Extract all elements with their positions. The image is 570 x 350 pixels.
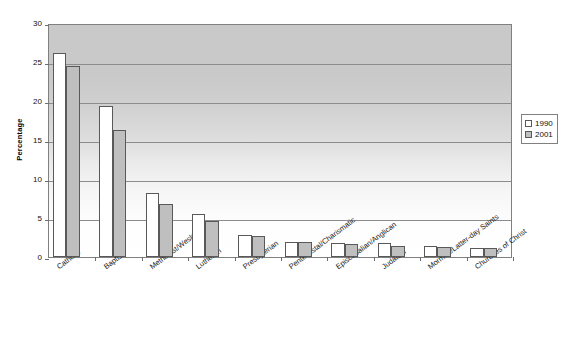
x-axis-tick-mark: [467, 257, 468, 261]
bar-chart: Percentage 051015202530 CatholicBaptistM…: [0, 0, 570, 350]
bar[interactable]: [113, 130, 127, 257]
y-axis-tick-mark: [45, 259, 49, 260]
x-axis-tick-mark: [420, 257, 421, 261]
plot-area: [48, 24, 512, 258]
x-axis-tick-mark: [95, 257, 96, 261]
legend-swatch-icon-1990: [525, 120, 532, 127]
bar[interactable]: [470, 248, 484, 257]
gridline: [49, 64, 511, 65]
bar[interactable]: [66, 66, 80, 257]
bar[interactable]: [205, 221, 219, 257]
bar[interactable]: [378, 243, 392, 257]
x-axis-tick-mark: [281, 257, 282, 261]
x-axis-tick-mark: [374, 257, 375, 261]
y-axis-tick-label: 0: [16, 254, 42, 262]
x-axis-tick-mark: [327, 257, 328, 261]
legend-label-2001: 2001: [535, 130, 553, 139]
bar[interactable]: [146, 193, 160, 257]
y-axis-tick-label: 10: [16, 176, 42, 184]
bar[interactable]: [391, 246, 405, 257]
x-axis-tick-mark: [513, 257, 514, 261]
bar[interactable]: [192, 214, 206, 257]
bar[interactable]: [285, 242, 299, 257]
bar[interactable]: [298, 242, 312, 257]
y-axis-tick-mark: [45, 103, 49, 104]
bar[interactable]: [484, 248, 498, 257]
y-axis-tick-mark: [45, 64, 49, 65]
y-axis-tick-label: 20: [16, 98, 42, 106]
bar[interactable]: [159, 204, 173, 257]
bar[interactable]: [53, 53, 67, 257]
y-axis-tick-label: 15: [16, 137, 42, 145]
bar[interactable]: [238, 235, 252, 257]
y-axis-tick-label: 25: [16, 59, 42, 67]
legend: 1990 2001: [521, 114, 558, 144]
x-axis-tick-mark: [188, 257, 189, 261]
bar[interactable]: [99, 106, 113, 257]
x-axis-tick-mark: [235, 257, 236, 261]
bar[interactable]: [345, 244, 359, 257]
x-axis-tick-mark: [142, 257, 143, 261]
bar[interactable]: [437, 247, 451, 257]
y-axis-tick-mark: [45, 220, 49, 221]
bar[interactable]: [331, 243, 345, 257]
y-axis-tick-label: 30: [16, 20, 42, 28]
legend-item-2001[interactable]: 2001: [525, 129, 553, 140]
bar[interactable]: [252, 236, 266, 257]
y-axis-tick-label: 5: [16, 215, 42, 223]
bar[interactable]: [424, 246, 438, 257]
gridline: [49, 103, 511, 104]
y-axis-tick-mark: [45, 25, 49, 26]
legend-label-1990: 1990: [535, 119, 553, 128]
y-axis-tick-mark: [45, 181, 49, 182]
legend-item-1990[interactable]: 1990: [525, 118, 553, 129]
y-axis-tick-mark: [45, 142, 49, 143]
legend-swatch-icon-2001: [525, 131, 532, 138]
